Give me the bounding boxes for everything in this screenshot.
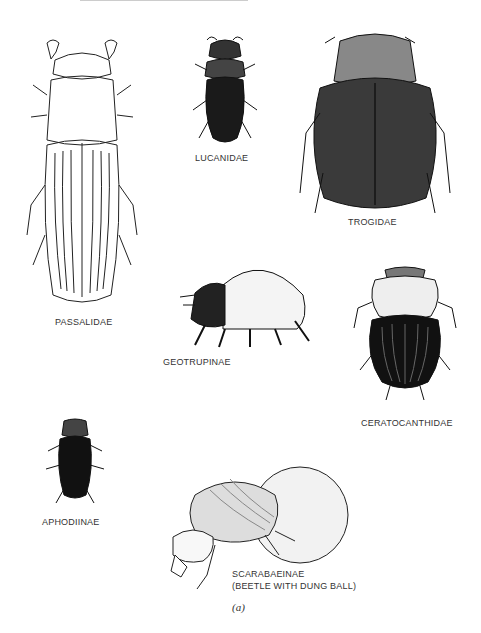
scan-edge-line <box>80 0 248 1</box>
ceratocanthidae-illustration <box>350 262 460 402</box>
label-aphodiinae: APHODIINAE <box>42 517 100 528</box>
aphodiinae-illustration <box>40 415 110 510</box>
label-geotrupinae: GEOTRUPINAE <box>163 357 231 368</box>
trogidae-illustration <box>295 33 455 223</box>
label-scarabaeinae: SCARABAEINAE <box>232 569 304 580</box>
figure-caption: (a) <box>232 601 245 613</box>
label-trogidae: TROGIDAE <box>348 217 397 228</box>
label-scarabaeinae-note: (BEETLE WITH DUNG BALL) <box>232 581 356 592</box>
label-lucanidae: LUCANIDAE <box>195 153 248 164</box>
lucanidae-illustration <box>185 30 265 150</box>
passalidae-illustration <box>25 35 140 310</box>
geotrupinae-illustration <box>175 255 315 350</box>
label-ceratocanthidae: CERATOCANTHIDAE <box>361 418 453 429</box>
label-passalidae: PASSALIDAE <box>55 317 112 328</box>
